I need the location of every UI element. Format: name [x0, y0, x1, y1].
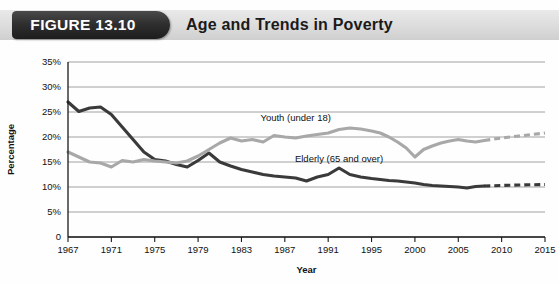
- x-tick-label: 2010: [491, 244, 512, 255]
- gridlines: [68, 62, 545, 237]
- y-tick-label: 35%: [42, 56, 62, 67]
- series-projection-elderly: [484, 185, 545, 187]
- x-axis-tick-labels: 1967197119751979198319871991199520002005…: [57, 244, 555, 255]
- x-tick-label: 1967: [57, 244, 78, 255]
- x-tick-label: 2000: [404, 244, 425, 255]
- x-tick-label: 1979: [188, 244, 209, 255]
- series-label-youth: Youth (under 18): [260, 112, 330, 123]
- figure-number-label: FIGURE 13.10: [12, 11, 154, 39]
- y-axis-tick-labels: 05%10%15%20%25%30%35%: [42, 56, 62, 242]
- y-tick-label: 10%: [42, 181, 62, 192]
- x-axis-tick-marks: [68, 237, 545, 242]
- series-label-elderly: Elderly (65 and over): [295, 153, 383, 164]
- x-tick-label: 2015: [534, 244, 555, 255]
- x-tick-label: 1971: [101, 244, 122, 255]
- x-tick-label: 1995: [361, 244, 382, 255]
- y-tick-label: 25%: [42, 106, 62, 117]
- chart-plot-area: 05%10%15%20%25%30%35% 196719711975197919…: [0, 46, 559, 283]
- x-tick-label: 1983: [231, 244, 252, 255]
- y-tick-label: 15%: [42, 156, 62, 167]
- x-tick-label: 2005: [448, 244, 469, 255]
- y-tick-label: 5%: [47, 206, 61, 217]
- figure-title: Age and Trends in Poverty: [186, 11, 393, 39]
- x-tick-label: 1975: [144, 244, 165, 255]
- x-tick-label: 1991: [318, 244, 339, 255]
- figure-number-badge: FIGURE 13.10: [12, 11, 170, 39]
- y-tick-label: 0: [56, 231, 61, 242]
- y-tick-label: 30%: [42, 81, 62, 92]
- line-chart: 05%10%15%20%25%30%35% 196719711975197919…: [0, 46, 559, 283]
- x-axis-title: Year: [296, 264, 316, 275]
- series-line-youth: [68, 128, 484, 167]
- figure-root: FIGURE 13.10 Age and Trends in Poverty 0…: [0, 0, 559, 283]
- y-tick-label: 20%: [42, 131, 62, 142]
- x-tick-label: 1987: [274, 244, 295, 255]
- y-axis-title: Percentage: [5, 124, 16, 175]
- series-inline-labels: Elderly (65 and over)Youth (under 18): [260, 112, 383, 164]
